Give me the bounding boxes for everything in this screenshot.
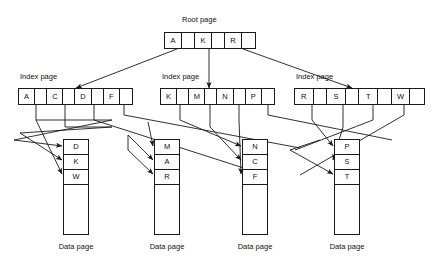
- index-0-cell-key-0[interactable]: A: [19, 89, 35, 104]
- root-cell-key-0[interactable]: A: [165, 33, 182, 48]
- data-page-0-label: Data page: [50, 242, 102, 251]
- root-cell-key-4[interactable]: R: [225, 33, 242, 48]
- data-page-0-row-0[interactable]: D: [64, 140, 88, 155]
- index-2-cell-key-0[interactable]: R: [295, 89, 314, 104]
- data-page-3-free-space: [335, 185, 359, 234]
- data-page-1-row-0[interactable]: M: [155, 140, 179, 155]
- data-page-2-label: Data page: [229, 242, 281, 251]
- index-2-cell-pointer-3[interactable]: [346, 89, 360, 104]
- index-page-0[interactable]: ACDF: [18, 88, 133, 105]
- data-page-1-free-space: [155, 185, 179, 234]
- index-1-cell-pointer-1[interactable]: [177, 89, 189, 104]
- data-page-3-label: Data page: [321, 242, 373, 251]
- index-2-cell-key-6[interactable]: W: [392, 89, 411, 104]
- data-page-2-row-2[interactable]: F: [243, 170, 267, 185]
- data-page-0[interactable]: DKW: [63, 139, 89, 235]
- data-page-0-row-1[interactable]: K: [64, 155, 88, 170]
- index-page-1-label: Index page: [162, 72, 199, 81]
- index-0-cell-key-4[interactable]: D: [75, 89, 91, 104]
- index-0-cell-pointer-3[interactable]: [63, 89, 75, 104]
- index-1-cell-pointer-7[interactable]: [262, 89, 274, 104]
- index-0-cell-pointer-5[interactable]: [92, 89, 104, 104]
- index-1-cell-key-0[interactable]: K: [161, 89, 177, 104]
- index-1-cell-key-4[interactable]: N: [217, 89, 233, 104]
- root-page-label: Root page: [182, 15, 217, 24]
- index-0-cell-key-6[interactable]: F: [104, 89, 120, 104]
- root-cell-pointer-1[interactable]: [182, 33, 195, 48]
- index-1-cell-key-6[interactable]: P: [246, 89, 262, 104]
- index-1-cell-key-2[interactable]: M: [189, 89, 205, 104]
- index-0-cell-key-2[interactable]: C: [47, 89, 63, 104]
- data-page-2[interactable]: NCF: [242, 139, 268, 235]
- data-page-3-row-1[interactable]: S: [335, 155, 359, 170]
- root-cell-pointer-5[interactable]: [242, 33, 255, 48]
- data-page-3-row-0[interactable]: P: [335, 140, 359, 155]
- index-page-1[interactable]: KMNP: [160, 88, 275, 105]
- index-1-cell-pointer-5[interactable]: [234, 89, 246, 104]
- btree-diagram: Root page AKR Index page ACDF Index page…: [0, 0, 432, 267]
- index-2-cell-pointer-5[interactable]: [378, 89, 392, 104]
- index-0-cell-pointer-7[interactable]: [120, 89, 132, 104]
- data-page-3[interactable]: PST: [334, 139, 360, 235]
- root-cell-pointer-3[interactable]: [212, 33, 225, 48]
- index-0-cell-pointer-1[interactable]: [35, 89, 47, 104]
- index-2-cell-pointer-1[interactable]: [314, 89, 328, 104]
- data-page-1-row-2[interactable]: R: [155, 170, 179, 185]
- data-page-2-free-space: [243, 185, 267, 234]
- data-page-3-row-2[interactable]: T: [335, 170, 359, 185]
- index-page-0-label: Index page: [20, 72, 57, 81]
- index-2-cell-pointer-7[interactable]: [410, 89, 424, 104]
- data-page-0-row-2[interactable]: W: [64, 170, 88, 185]
- data-page-0-free-space: [64, 185, 88, 234]
- index-page-2[interactable]: RSTW: [294, 88, 425, 105]
- index-1-cell-pointer-3[interactable]: [205, 89, 217, 104]
- root-page[interactable]: AKR: [164, 32, 256, 49]
- index-2-cell-key-2[interactable]: S: [327, 89, 346, 104]
- index-page-2-label: Index page: [296, 72, 333, 81]
- index-2-cell-key-4[interactable]: T: [359, 89, 378, 104]
- data-page-1[interactable]: MAR: [154, 139, 180, 235]
- data-page-2-row-0[interactable]: N: [243, 140, 267, 155]
- data-page-1-label: Data page: [141, 242, 193, 251]
- data-page-1-row-1[interactable]: A: [155, 155, 179, 170]
- data-page-2-row-1[interactable]: C: [243, 155, 267, 170]
- root-cell-key-2[interactable]: K: [195, 33, 212, 48]
